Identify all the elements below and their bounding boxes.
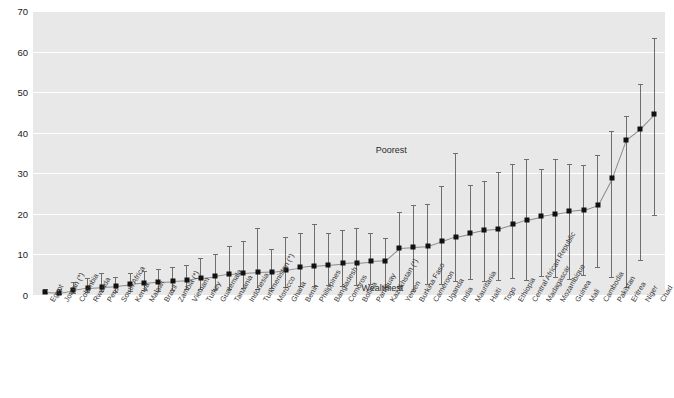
y-axis-tick-label: 70 — [17, 6, 28, 17]
data-point-marker — [411, 245, 416, 250]
error-bar-cap-upper — [312, 224, 317, 225]
error-bar-cap-upper — [567, 164, 572, 165]
error-bar-cap-upper — [397, 212, 402, 213]
annotation-poorest: Poorest — [376, 145, 407, 155]
error-bar — [640, 84, 641, 260]
error-bar-cap-upper — [595, 155, 600, 156]
error-bar-cap-upper — [425, 204, 430, 205]
error-bar-cap-upper — [609, 131, 614, 132]
data-point-marker — [609, 176, 614, 181]
error-bar-cap-upper — [553, 159, 558, 160]
error-bar-cap-lower — [496, 280, 501, 281]
error-bar-cap-upper — [113, 277, 118, 278]
error-bar-cap-upper — [496, 172, 501, 173]
error-bar-cap-upper — [269, 249, 274, 250]
error-bar-cap-upper — [298, 233, 303, 234]
error-bar — [569, 164, 570, 278]
error-bar-cap-upper — [354, 228, 359, 229]
error-bar — [654, 38, 655, 215]
error-bar — [611, 131, 612, 277]
data-point-marker — [425, 244, 430, 249]
error-bar-cap-upper — [213, 254, 218, 255]
error-bar-cap-upper — [482, 181, 487, 182]
data-point-marker — [638, 126, 643, 131]
error-bar-cap-upper — [439, 186, 444, 187]
data-point-marker — [326, 262, 331, 267]
error-bar — [300, 233, 301, 286]
y-axis-tick-label: 20 — [17, 208, 28, 219]
error-bar-cap-upper — [241, 241, 246, 242]
error-bar-cap-lower — [510, 278, 515, 279]
y-axis: 010203040506070 — [0, 0, 28, 398]
data-point-marker — [354, 260, 359, 265]
error-bar-cap-upper — [326, 233, 331, 234]
data-point-marker — [213, 274, 218, 279]
data-point-marker — [482, 228, 487, 233]
data-point-marker — [595, 202, 600, 207]
data-point-marker — [581, 207, 586, 212]
y-axis-tick-label: 50 — [17, 87, 28, 98]
error-bar-cap-upper — [340, 230, 345, 231]
data-point-marker — [468, 231, 473, 236]
data-point-marker — [298, 265, 303, 270]
error-bar-cap-upper — [170, 267, 175, 268]
error-bar-cap-upper — [510, 164, 515, 165]
error-bar-cap-upper — [198, 258, 203, 259]
data-point-marker — [539, 214, 544, 219]
error-bar-cap-upper — [624, 116, 629, 117]
error-bar-cap-upper — [283, 237, 288, 238]
data-point-marker — [340, 261, 345, 266]
error-bar — [541, 169, 542, 276]
data-point-marker — [43, 289, 48, 294]
y-axis-tick-label: 60 — [17, 46, 28, 57]
error-bar — [356, 228, 357, 285]
error-bar-cap-upper — [638, 84, 643, 85]
data-point-marker — [453, 234, 458, 239]
data-point-marker — [255, 270, 260, 275]
error-bar-cap-upper — [581, 165, 586, 166]
data-point-marker — [496, 226, 501, 231]
data-point-marker — [553, 211, 558, 216]
data-series — [33, 11, 665, 295]
data-point-marker — [510, 222, 515, 227]
error-bar-cap-upper — [652, 38, 657, 39]
error-bar — [583, 165, 584, 275]
error-bar — [512, 164, 513, 278]
error-bar-cap-upper — [368, 233, 373, 234]
error-bar-cap-upper — [383, 238, 388, 239]
data-point-marker — [383, 258, 388, 263]
y-axis-tick-label: 40 — [17, 127, 28, 138]
error-bar-cap-upper — [227, 246, 232, 247]
error-bar-cap-upper — [99, 273, 104, 274]
data-point-marker — [624, 137, 629, 142]
data-point-marker — [397, 245, 402, 250]
y-axis-tick-label: 10 — [17, 249, 28, 260]
data-point-marker — [652, 112, 657, 117]
data-point-marker — [567, 209, 572, 214]
y-axis-tick-label: 0 — [23, 290, 28, 301]
error-bar-cap-upper — [156, 269, 161, 270]
error-bar — [455, 153, 456, 281]
error-bar-cap-upper — [184, 265, 189, 266]
error-bar-cap-lower — [595, 267, 600, 268]
error-bar-cap-lower — [638, 260, 643, 261]
data-point-marker — [312, 263, 317, 268]
plot-area: PoorestWealthiest — [33, 11, 665, 295]
data-point-marker — [439, 239, 444, 244]
error-bar-cap-lower — [468, 279, 473, 280]
data-point-marker — [524, 217, 529, 222]
data-point-marker — [269, 269, 274, 274]
error-bar-cap-upper — [255, 228, 260, 229]
error-bar-cap-upper — [453, 153, 458, 154]
error-bar-cap-upper — [468, 185, 473, 186]
data-point-marker — [368, 259, 373, 264]
error-bar — [597, 155, 598, 268]
error-bar-cap-lower — [652, 215, 657, 216]
y-axis-tick-label: 30 — [17, 168, 28, 179]
error-bar-cap-upper — [411, 205, 416, 206]
error-bar-cap-upper — [539, 169, 544, 170]
error-bar-cap-upper — [524, 159, 529, 160]
error-bar — [314, 224, 315, 286]
